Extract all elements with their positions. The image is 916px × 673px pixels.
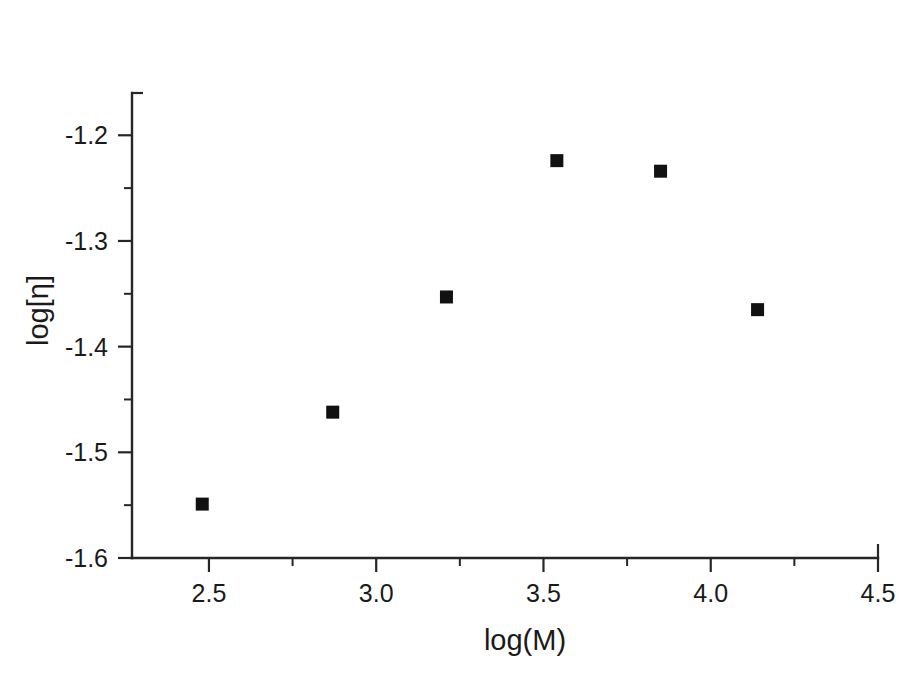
- x-tick-label: 2.5: [192, 579, 227, 607]
- plot-canvas: 2.53.03.54.04.5-1.2-1.3-1.4-1.5-1.6log(M…: [0, 0, 916, 673]
- x-tick-label: 4.0: [693, 579, 728, 607]
- y-tick-label: -1.3: [65, 227, 108, 255]
- data-point-marker: [550, 154, 563, 167]
- figure-scatter-plot: 2.53.03.54.04.5-1.2-1.3-1.4-1.5-1.6log(M…: [0, 0, 916, 673]
- y-tick-label: -1.6: [65, 544, 108, 572]
- data-point-marker: [196, 498, 209, 511]
- data-point-marker: [654, 165, 667, 178]
- y-tick-label: -1.5: [65, 438, 108, 466]
- x-tick-label: 3.0: [359, 579, 394, 607]
- data-point-marker: [751, 303, 764, 316]
- x-tick-label: 4.5: [861, 579, 896, 607]
- y-tick-label: -1.2: [65, 121, 108, 149]
- y-axis-title: log[η]: [22, 275, 54, 346]
- data-point-marker: [440, 290, 453, 303]
- x-axis-title: log(M): [484, 624, 566, 656]
- x-tick-label: 3.5: [526, 579, 561, 607]
- data-point-marker: [326, 406, 339, 419]
- y-tick-label: -1.4: [65, 333, 108, 361]
